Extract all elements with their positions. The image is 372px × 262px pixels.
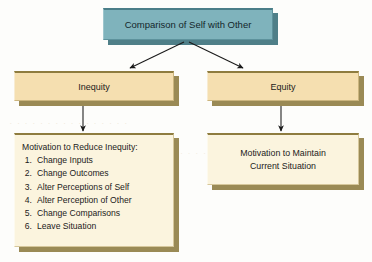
list-item: 2. Change Outcomes [22, 167, 138, 180]
node-face: Comparison of Self with Other [103, 8, 273, 40]
node-label: Equity [270, 82, 295, 92]
reduce-inequity-list: 1. Change Inputs 2. Change Outcomes 3. A… [22, 154, 138, 234]
reduce-inequity-content: Motivation to Reduce Inequity: 1. Change… [22, 142, 138, 234]
watermark-text-b: · · · · · · · · · · · · · · · · [10, 120, 129, 126]
node-face: Equity [207, 71, 359, 101]
list-item-number: 5. [22, 207, 37, 220]
node-inequity[interactable]: Inequity [14, 71, 174, 101]
list-item-label: Change Outcomes [37, 167, 109, 180]
node-label: Inequity [78, 82, 110, 92]
list-item-number: 3. [22, 181, 37, 194]
list-heading: Motivation to Reduce Inequity: [22, 142, 138, 152]
list-item-label: Leave Situation [37, 220, 96, 233]
list-item-label: Alter Perception of Other [37, 194, 132, 207]
connector-root-to-inequity [130, 42, 184, 68]
list-item-label: Change Inputs [37, 154, 93, 167]
list-item: 5. Change Comparisons [22, 207, 138, 220]
maintain-situation-line-1: Motivation to Maintain [240, 147, 326, 160]
node-face: Inequity [14, 71, 174, 101]
node-motivation-to-maintain-current-situation[interactable]: Motivation to Maintain Current Situation [207, 133, 359, 185]
maintain-situation-content: Motivation to Maintain Current Situation [240, 147, 326, 172]
list-item-label: Change Comparisons [37, 207, 120, 220]
list-item-number: 4. [22, 194, 37, 207]
list-item-number: 1. [22, 154, 37, 167]
node-equity[interactable]: Equity [207, 71, 359, 101]
node-face: Motivation to Maintain Current Situation [207, 133, 359, 185]
equity-theory-diagram: xpected Theor · · · · · · · · · · · · · … [0, 0, 372, 262]
list-item-number: 2. [22, 167, 37, 180]
connector-root-to-equity [189, 42, 243, 68]
maintain-situation-line-2: Current Situation [240, 160, 326, 173]
list-item: 4. Alter Perception of Other [22, 194, 138, 207]
list-item-label: Alter Perceptions of Self [37, 181, 129, 194]
list-item: 6. Leave Situation [22, 220, 138, 233]
node-face: Motivation to Reduce Inequity: 1. Change… [14, 133, 174, 247]
list-item: 3. Alter Perceptions of Self [22, 181, 138, 194]
node-motivation-to-reduce-inequity[interactable]: Motivation to Reduce Inequity: 1. Change… [14, 133, 174, 247]
node-comparison-of-self-with-other[interactable]: Comparison of Self with Other [103, 8, 273, 40]
node-label: Comparison of Self with Other [125, 19, 252, 30]
list-item-number: 6. [22, 220, 37, 233]
list-item: 1. Change Inputs [22, 154, 138, 167]
